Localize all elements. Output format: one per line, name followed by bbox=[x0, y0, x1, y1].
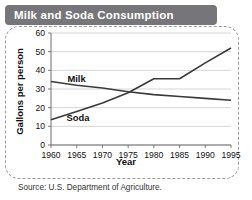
x-tick-label: 1965 bbox=[67, 150, 86, 160]
series-line-soda bbox=[51, 48, 231, 120]
chart-plot-region: Gallons per person Year 0102030405060 19… bbox=[0, 26, 252, 179]
x-tick-label: 1970 bbox=[93, 150, 112, 160]
chart-title-bar: Milk and Soda Consumption bbox=[5, 5, 217, 25]
x-tick-label: 1985 bbox=[170, 150, 189, 160]
y-tick-label: 0 bbox=[40, 140, 45, 150]
y-tick-label: 10 bbox=[35, 121, 45, 131]
x-tick-label: 1995 bbox=[221, 150, 240, 160]
y-tick-label: 40 bbox=[35, 65, 45, 75]
page-title: Milk and Soda Consumption bbox=[5, 9, 174, 21]
y-tick-label: 50 bbox=[35, 47, 45, 57]
source-note: Source: U.S. Department of Agriculture. bbox=[18, 183, 162, 192]
x-tick-label: 1990 bbox=[196, 150, 215, 160]
line-chart-svg: 0102030405060 19601965197019751980198519… bbox=[0, 26, 252, 179]
chart-figure: Milk and Soda Consumption Gallons per pe… bbox=[0, 0, 252, 200]
series-line-milk bbox=[51, 82, 231, 101]
y-axis-ticks-group: 0102030405060 bbox=[35, 28, 45, 150]
gridlines-group bbox=[48, 33, 231, 148]
y-tick-label: 30 bbox=[35, 84, 45, 94]
x-tick-label: 1960 bbox=[41, 150, 60, 160]
series-label-soda: Soda bbox=[66, 112, 90, 123]
x-axis-ticks-group: 19601965197019751980198519901995 bbox=[41, 150, 240, 160]
data-series-group bbox=[51, 48, 231, 120]
series-label-milk: Milk bbox=[67, 73, 86, 84]
x-tick-label: 1975 bbox=[119, 150, 138, 160]
y-tick-label: 60 bbox=[35, 28, 45, 38]
series-labels-group: MilkSoda bbox=[66, 73, 90, 123]
y-tick-label: 20 bbox=[35, 103, 45, 113]
x-tick-label: 1980 bbox=[144, 150, 163, 160]
